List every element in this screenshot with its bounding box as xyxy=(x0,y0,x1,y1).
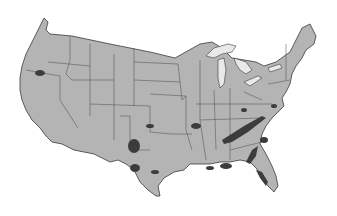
region-texas-north xyxy=(146,124,154,128)
region-arkansas-ozarks xyxy=(191,123,201,129)
us-map xyxy=(0,0,337,216)
region-carolinas xyxy=(260,137,268,143)
region-west-texas xyxy=(128,139,140,153)
region-kentucky xyxy=(241,108,247,112)
region-mississippi xyxy=(206,166,214,170)
region-texas-east xyxy=(151,170,159,174)
region-southern-oregon xyxy=(35,70,45,76)
region-gulf-coast xyxy=(220,163,232,169)
region-virginia xyxy=(271,104,277,108)
region-texas-south xyxy=(130,164,140,172)
